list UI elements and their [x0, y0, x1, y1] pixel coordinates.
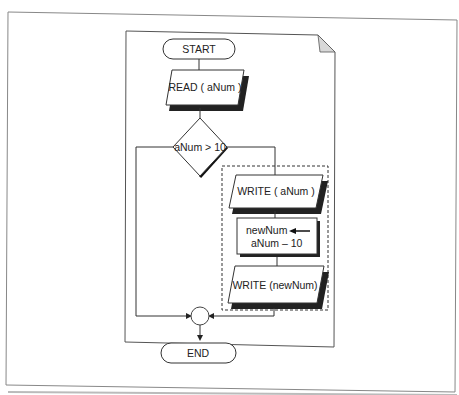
- end-node: END: [161, 343, 236, 363]
- connector-node: [191, 307, 209, 325]
- write-anum-node: WRITE ( aNum ): [229, 175, 328, 214]
- assign-node: newNum aNum – 10: [237, 218, 320, 257]
- start-node: START: [163, 39, 235, 59]
- write-anum-label: WRITE ( aNum ): [237, 185, 315, 197]
- read-label: READ ( aNum ): [169, 81, 242, 93]
- end-label: END: [187, 347, 210, 359]
- read-node: READ ( aNum ): [166, 70, 249, 111]
- write-newnum-node: WRITE (newNum): [228, 266, 329, 309]
- start-label: START: [182, 43, 216, 55]
- decision-label: aNum > 10: [174, 141, 226, 153]
- assign-line1: newNum: [246, 224, 288, 236]
- assign-line2: aNum – 10: [251, 237, 303, 249]
- flowchart-canvas: START READ ( aNum ) aNum > 10 WRITE ( aN…: [0, 0, 459, 395]
- write-newnum-label: WRITE (newNum): [232, 279, 317, 291]
